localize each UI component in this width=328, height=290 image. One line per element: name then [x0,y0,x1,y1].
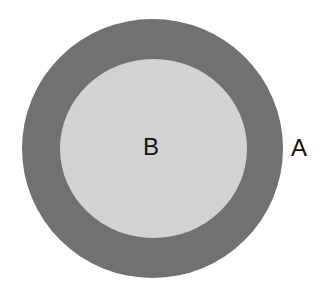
label-b: B [143,135,159,159]
label-a: A [291,136,307,160]
